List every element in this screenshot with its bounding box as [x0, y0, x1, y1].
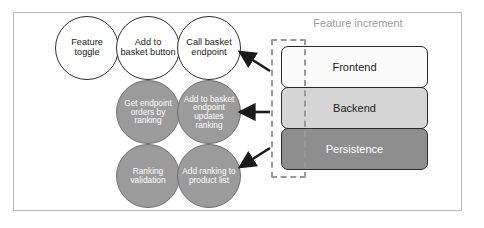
- story-label: Ranking validation: [117, 167, 179, 184]
- architecture-layer-stack: Frontend Backend Persistence: [281, 46, 428, 169]
- arrow-frontend-to-stories: [232, 46, 274, 76]
- layer-label: Persistence: [326, 143, 383, 155]
- story-circle-get-endpoint-orders-by-ranking[interactable]: Get endpoint orders by ranking: [116, 80, 180, 144]
- story-label: Get endpoint orders by ranking: [117, 99, 179, 125]
- story-label: Call basket endpoint: [178, 38, 240, 57]
- feature-increment-diagram: Feature toggle Add to basket button Call…: [0, 0, 484, 228]
- layer-label: Frontend: [332, 61, 376, 73]
- layer-frontend[interactable]: Frontend: [281, 46, 428, 88]
- story-circle-feature-toggle[interactable]: Feature toggle: [55, 16, 119, 80]
- story-label: Feature toggle: [56, 38, 118, 57]
- feature-increment-label: Feature increment: [306, 17, 410, 29]
- story-circle-add-to-basket-button[interactable]: Add to basket button: [116, 16, 180, 80]
- story-label: Add to basket endpoint updates ranking: [178, 95, 240, 130]
- layer-backend[interactable]: Backend: [281, 87, 428, 129]
- arrow-backend-to-stories: [232, 100, 274, 124]
- story-label: Add to basket button: [117, 38, 179, 57]
- layer-persistence[interactable]: Persistence: [281, 128, 428, 170]
- story-label: Add ranking to product list: [178, 167, 240, 184]
- story-circle-ranking-validation[interactable]: Ranking validation: [116, 144, 180, 208]
- layer-label: Backend: [333, 102, 376, 114]
- arrow-persistence-to-stories: [232, 142, 274, 172]
